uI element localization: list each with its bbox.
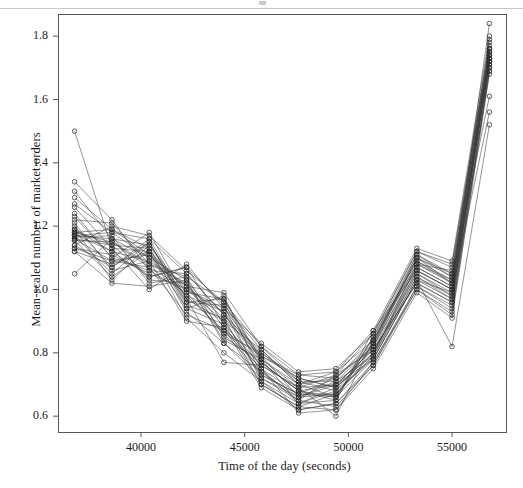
series-line xyxy=(75,68,490,407)
x-tick-label: 40000 xyxy=(101,440,181,455)
series-line xyxy=(75,55,490,391)
data-point-marker xyxy=(72,271,77,276)
x-axis-label: Time of the day (seconds) xyxy=(0,459,523,474)
series-line xyxy=(75,36,490,375)
x-tick-label: 50000 xyxy=(308,440,388,455)
series-line xyxy=(75,62,490,398)
series-line xyxy=(75,58,490,403)
series-line xyxy=(75,62,490,391)
series-line xyxy=(75,65,490,404)
series-line xyxy=(75,62,490,398)
y-tick-label: 0.6 xyxy=(6,408,48,423)
series-line xyxy=(75,24,490,382)
series-line xyxy=(75,46,490,372)
series-line xyxy=(75,52,490,416)
y-tick-label: 0.8 xyxy=(6,345,48,360)
data-point-marker xyxy=(487,94,492,99)
y-tick-label: 1.2 xyxy=(6,218,48,233)
series-line xyxy=(75,62,490,395)
series-line xyxy=(75,58,490,397)
data-point-marker xyxy=(487,110,492,115)
x-axis-label-text: Time of the day (seconds) xyxy=(172,459,351,474)
series-line xyxy=(75,39,490,397)
series-line xyxy=(75,58,490,400)
series-line xyxy=(75,55,490,397)
series-line xyxy=(75,65,490,394)
y-tick-label: 1.0 xyxy=(6,282,48,297)
series-line xyxy=(75,49,490,388)
series-line xyxy=(75,68,490,410)
spaghetti-plot xyxy=(0,0,523,488)
series-line xyxy=(75,96,490,378)
series-line xyxy=(75,55,490,400)
chart-root: Mean-scaled number of market orders Time… xyxy=(0,0,523,488)
series-line xyxy=(75,49,490,385)
y-tick-label: 1.6 xyxy=(6,92,48,107)
y-tick-label: 1.4 xyxy=(6,155,48,170)
series-line xyxy=(75,52,490,388)
series-line xyxy=(75,52,490,385)
series-line xyxy=(75,49,490,397)
x-tick-label: 45000 xyxy=(205,440,285,455)
y-tick-label: 1.8 xyxy=(6,28,48,43)
series-line xyxy=(75,43,490,388)
x-tick-label: 55000 xyxy=(412,440,492,455)
